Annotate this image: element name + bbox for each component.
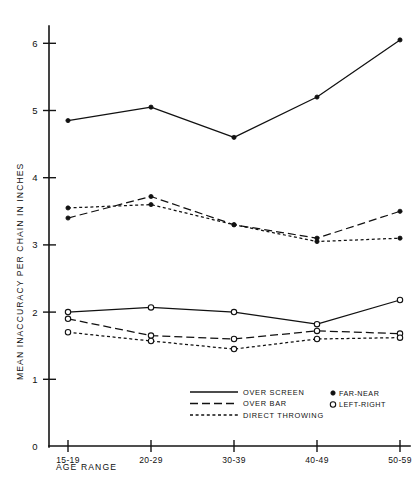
data-point-marker (65, 316, 70, 321)
x-axis-title: AGE RANGE (56, 462, 117, 472)
data-point-marker (398, 38, 402, 42)
x-axis: 15-1920-2930-3940-4950-59 AGE RANGE (49, 440, 412, 472)
x-axis-tick-label: 40-49 (305, 455, 329, 465)
data-point-marker (231, 309, 236, 314)
data-series (66, 38, 402, 140)
data-series (65, 316, 402, 342)
data-point-marker (231, 336, 236, 341)
series-line (68, 40, 400, 137)
data-point-marker (148, 333, 153, 338)
data-point-marker (315, 95, 319, 99)
y-axis-ticks: 0123456 (32, 38, 56, 452)
data-point-marker (397, 297, 402, 302)
data-point-marker (149, 202, 153, 206)
data-point-marker (397, 335, 402, 340)
y-axis-title: MEAN INACCURACY PER CHAIN IN INCHES (15, 163, 25, 380)
chart-figure: 0123456 MEAN INACCURACY PER CHAIN IN INC… (0, 0, 412, 477)
data-point-marker (315, 239, 319, 243)
data-point-marker (149, 194, 153, 198)
data-point-marker (148, 338, 153, 343)
legend-label: OVER SCREEN (243, 388, 305, 397)
data-point-marker (148, 305, 153, 310)
data-point-marker (314, 336, 319, 341)
data-point-marker (65, 330, 70, 335)
legend-marker-sample (330, 402, 335, 407)
data-point-marker (398, 209, 402, 213)
data-series (66, 202, 402, 243)
data-point-marker (65, 309, 70, 314)
chart-legend: OVER SCREENOVER BARDIRECT THROWINGFAR-NE… (190, 388, 386, 420)
data-point-marker (231, 346, 236, 351)
data-point-marker (314, 328, 319, 333)
legend-label: OVER BAR (243, 399, 287, 408)
line-chart: 0123456 MEAN INACCURACY PER CHAIN IN INC… (0, 0, 412, 477)
data-point-marker (232, 135, 236, 139)
y-axis-tick-label: 4 (32, 172, 38, 183)
y-axis-tick-label: 5 (32, 105, 38, 116)
x-axis-tick-label: 30-39 (222, 455, 246, 465)
legend-marker-sample (331, 391, 335, 395)
y-axis-tick-label: 3 (32, 239, 38, 250)
y-axis-tick-label: 6 (32, 38, 38, 49)
legend-label: DIRECT THROWING (243, 411, 324, 420)
data-point-marker (314, 321, 319, 326)
data-point-marker (232, 223, 236, 227)
data-series (66, 194, 402, 240)
y-axis-tick-label: 0 (32, 441, 38, 452)
legend-marker-label: FAR-NEAR (339, 389, 379, 398)
series-line (68, 197, 400, 239)
data-point-marker (149, 105, 153, 109)
y-axis-tick-label: 1 (32, 374, 38, 385)
data-point-marker (66, 118, 70, 122)
data-series (65, 297, 402, 327)
y-axis-tick-label: 2 (32, 307, 38, 318)
data-point-marker (66, 206, 70, 210)
legend-marker-label: LEFT-RIGHT (339, 400, 386, 409)
x-axis-tick-label: 20-29 (139, 455, 163, 465)
data-point-marker (398, 236, 402, 240)
data-point-marker (66, 216, 70, 220)
y-axis: 0123456 MEAN INACCURACY PER CHAIN IN INC… (15, 26, 56, 452)
data-series-group (65, 38, 402, 352)
x-axis-tick-label: 50-59 (388, 455, 412, 465)
